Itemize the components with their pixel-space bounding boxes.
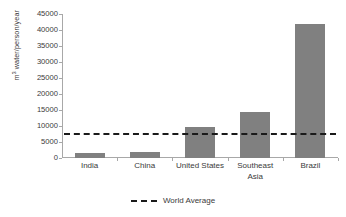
bar-brazil [295, 24, 325, 158]
plot-area [62, 14, 338, 158]
x-axis-category-labels: IndiaChinaUnited StatesSoutheastAsiaBraz… [62, 161, 338, 191]
legend-item-label: World Average [163, 196, 215, 205]
bars-layer [62, 14, 338, 158]
y-axis-tick-label: 10000 [18, 122, 58, 130]
y-axis-tick-label: 25000 [18, 74, 58, 82]
y-axis-tick-label: 20000 [18, 90, 58, 98]
bar-india [75, 153, 105, 158]
y-axis-tick-mark [59, 158, 62, 159]
y-axis-tick-label: 40000 [18, 26, 58, 34]
world-average-reference-line [64, 133, 336, 135]
bar-china [130, 152, 160, 158]
legend-dashed-line-icon [131, 200, 157, 202]
x-axis-label-india: India [62, 161, 117, 172]
x-axis-label-china: China [117, 161, 172, 172]
y-axis-tick-label: 0 [18, 154, 58, 162]
bar-chart: m3 water/person/year 0500010000150002000… [0, 0, 346, 217]
x-axis-tick-mark [338, 158, 339, 161]
y-axis-tick-label: 45000 [18, 10, 58, 18]
y-axis-tick-label: 5000 [18, 138, 58, 146]
x-axis-label-southeast-asia: SoutheastAsia [228, 161, 283, 182]
chart-legend: World Average [0, 196, 346, 205]
y-axis-tick-label: 30000 [18, 58, 58, 66]
y-axis-tick-labels: 0500010000150002000025000300003500040000… [18, 10, 58, 160]
bar-united-states [185, 127, 215, 158]
y-axis-title-superscript: 3 [11, 71, 17, 74]
x-axis-label-united-states: United States [172, 161, 227, 172]
y-axis-tick-label: 15000 [18, 106, 58, 114]
y-axis-tick-label: 35000 [18, 42, 58, 50]
x-axis-label-brazil: Brazil [283, 161, 338, 172]
